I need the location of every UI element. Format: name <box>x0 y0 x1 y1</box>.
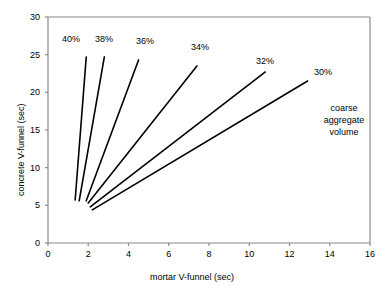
annotation-line-2: aggregate <box>309 114 379 126</box>
series-label-30: 30% <box>314 67 332 77</box>
series-line-36 <box>86 60 138 201</box>
series-label-36: 36% <box>136 36 154 46</box>
series-line-38 <box>79 57 104 201</box>
y-tick-label: 30 <box>24 12 40 22</box>
series-line-30 <box>92 81 307 210</box>
x-tick-label: 2 <box>77 249 99 259</box>
series-line-32 <box>90 72 265 207</box>
x-tick-label: 10 <box>238 249 260 259</box>
series-line-40 <box>75 57 86 200</box>
series-line-34 <box>88 66 197 203</box>
x-tick-label: 0 <box>37 249 59 259</box>
x-axis-title: mortar V-funnel (sec) <box>150 272 234 282</box>
annotation-line-1: coarse <box>309 102 379 114</box>
y-axis-title: concrete V-funnel (sec) <box>16 103 26 196</box>
y-tick-label: 20 <box>24 87 40 97</box>
series-label-38: 38% <box>95 34 113 44</box>
annotation-line-3: volume <box>309 126 379 138</box>
y-tick-label: 25 <box>24 50 40 60</box>
series-label-34: 34% <box>191 42 209 52</box>
x-tick-label: 4 <box>118 249 140 259</box>
chart-figure: 051015202530 0246810121416 mortar V-funn… <box>0 0 386 293</box>
coarse-aggregate-volume-annotation: coarse aggregate volume <box>309 102 379 138</box>
series-label-40: 40% <box>62 34 80 44</box>
x-tick-label: 8 <box>198 249 220 259</box>
y-tick-label: 15 <box>24 125 40 135</box>
y-tick-label: 5 <box>24 200 40 210</box>
x-tick-label: 6 <box>158 249 180 259</box>
series-label-32: 32% <box>256 56 274 66</box>
y-tick-label: 0 <box>24 238 40 248</box>
y-tick-label: 10 <box>24 163 40 173</box>
x-tick-label: 12 <box>279 249 301 259</box>
data-series-lines <box>75 57 307 210</box>
x-tick-label: 14 <box>319 249 341 259</box>
x-tick-label: 16 <box>359 249 381 259</box>
